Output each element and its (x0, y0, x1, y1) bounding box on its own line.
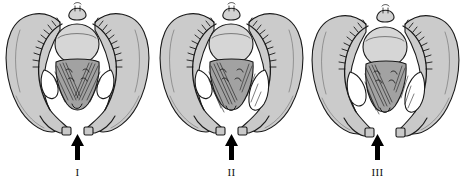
pelvis-diagram-3 (308, 0, 463, 150)
fetal-head (55, 24, 99, 64)
pelvis-diagram-1 (0, 0, 155, 150)
sacral-promontory (377, 10, 394, 22)
pelvic-floor-muscle (56, 59, 99, 110)
fetal-head (209, 24, 253, 64)
right-pubic-body (84, 127, 93, 135)
left-pubic-body (216, 127, 225, 135)
sacral-promontory (69, 8, 86, 20)
sacral-promontory (223, 8, 240, 20)
figure-root: I (0, 0, 463, 186)
pelvis-panel-3: III (308, 0, 463, 186)
pelvis-panel-1: I (0, 0, 155, 186)
left-pubic-body (62, 127, 71, 135)
left-pubic-body (365, 128, 374, 137)
pelvis-panel-2: II (154, 0, 309, 186)
right-pubic-body (238, 127, 247, 135)
panel-caption-3: III (300, 166, 455, 179)
panel-caption-1: I (0, 166, 155, 179)
right-pubic-body (396, 128, 405, 137)
panel-caption-2: II (154, 166, 309, 179)
pelvis-diagram-2 (154, 0, 309, 150)
